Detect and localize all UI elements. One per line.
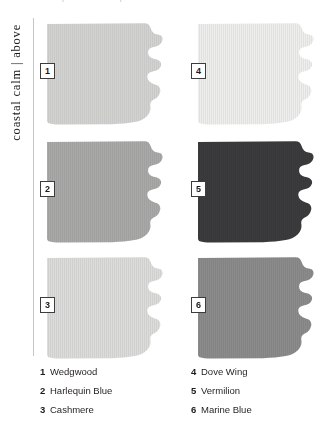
swatch-fill-2: [47, 140, 170, 243]
swatch-cell-2[interactable]: 2: [40, 140, 170, 243]
side-caption: coastal calm | above: [0, 24, 33, 214]
legend-number: 3: [40, 404, 46, 415]
swatch-cell-4[interactable]: 4: [191, 22, 321, 125]
swatch-legend: 1 Wedgwood 2 Harlequin Blue 3 Cashmere 4…: [40, 366, 330, 424]
swatch-fill-6: [198, 256, 321, 359]
legend-colour-name: Wedgwood: [50, 366, 97, 377]
swatch-paint-6: [198, 256, 321, 359]
swatch-paint-3: [47, 256, 170, 359]
swatch-paint-4: [198, 22, 321, 125]
swatch-cell-6[interactable]: 6: [191, 256, 321, 359]
legend-item[interactable]: 3 Cashmere: [40, 404, 180, 423]
swatch-badge-3[interactable]: 3: [40, 297, 55, 313]
legend-item[interactable]: 2 Harlequin Blue: [40, 385, 180, 404]
legend-item[interactable]: 6 Marine Blue: [191, 404, 331, 423]
swatch-fill-1: [47, 22, 170, 125]
legend-colour-name: Harlequin Blue: [50, 385, 112, 396]
top-cropped-text-strip: paint swatch plate: [0, 0, 333, 9]
swatch-fill-3: [47, 256, 170, 359]
legend-colour-name: Marine Blue: [201, 404, 252, 415]
legend-colour-name: Cashmere: [50, 404, 94, 415]
legend-number: 4: [191, 366, 197, 377]
swatch-grid: 1 2 3: [40, 22, 325, 358]
legend-number: 5: [191, 385, 197, 396]
legend-item[interactable]: 1 Wedgwood: [40, 366, 180, 385]
swatch-cell-5[interactable]: 5: [191, 140, 321, 243]
swatch-badge-4[interactable]: 4: [191, 63, 206, 79]
paint-swatch-plate: paint swatch plate coastal calm | above …: [0, 0, 333, 427]
swatch-fill-5: [198, 140, 321, 243]
side-caption-text: coastal calm | above: [10, 24, 23, 141]
legend-column-left: 1 Wedgwood 2 Harlequin Blue 3 Cashmere: [40, 366, 180, 423]
legend-number: 6: [191, 404, 197, 415]
legend-number: 1: [40, 366, 46, 377]
swatch-paint-5: [198, 140, 321, 243]
top-cropped-text: paint swatch plate: [62, 0, 141, 2]
swatch-badge-2[interactable]: 2: [40, 181, 55, 197]
legend-number: 2: [40, 385, 46, 396]
swatch-cell-3[interactable]: 3: [40, 256, 170, 359]
legend-item[interactable]: 4 Dove Wing: [191, 366, 331, 385]
swatch-cell-1[interactable]: 1: [40, 22, 170, 125]
legend-item[interactable]: 5 Vermilion: [191, 385, 331, 404]
swatch-badge-6[interactable]: 6: [191, 297, 206, 313]
swatch-paint-2: [47, 140, 170, 243]
legend-column-right: 4 Dove Wing 5 Vermilion 6 Marine Blue: [191, 366, 331, 423]
vertical-divider-rule: [33, 18, 34, 356]
legend-colour-name: Vermilion: [201, 385, 240, 396]
swatch-fill-4: [198, 22, 321, 125]
swatch-badge-5[interactable]: 5: [191, 181, 206, 197]
swatch-paint-1: [47, 22, 170, 125]
legend-colour-name: Dove Wing: [201, 366, 247, 377]
swatch-badge-1[interactable]: 1: [40, 63, 55, 79]
